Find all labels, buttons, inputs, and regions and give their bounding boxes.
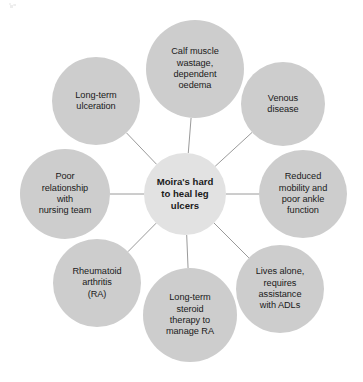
- satellite-node-label: Poor relationship with nursing team: [34, 171, 97, 217]
- connector-center-to-venous-disease: [215, 132, 252, 166]
- satellite-node-label: Rheumatoid arthritis (RA): [67, 266, 126, 300]
- diagram-canvas: Calf muscle wastage, dependent oedemaVen…: [0, 0, 363, 382]
- satellite-node-reduced-mobility[interactable]: Reduced mobility and poor ankle function: [259, 150, 347, 238]
- connector-center-to-lives-alone: [214, 223, 249, 258]
- satellite-node-calf-muscle-wastage[interactable]: Calf muscle wastage, dependent oedema: [146, 20, 244, 118]
- satellite-node-label: Venous disease: [262, 93, 303, 116]
- connector-center-to-calf-muscle-wastage: [188, 118, 191, 153]
- satellite-node-long-term-ulceration[interactable]: Long-term ulceration: [52, 57, 140, 145]
- satellite-node-label: Reduced mobility and poor ankle function: [274, 171, 332, 217]
- satellite-node-label: Long-term ulceration: [70, 90, 121, 113]
- satellite-node-rheumatoid-arthritis[interactable]: Rheumatoid arthritis (RA): [53, 239, 141, 327]
- connector-center-to-steroid-therapy: [187, 235, 188, 268]
- center-node-moiras-hard-to-heal-leg-ulcers[interactable]: Moira's hard to heal leg ulcers: [144, 153, 226, 235]
- satellite-node-steroid-therapy[interactable]: Long-term steroid therapy to manage RA: [143, 268, 237, 362]
- satellite-node-venous-disease[interactable]: Venous disease: [241, 62, 325, 146]
- connector-center-to-rheumatoid-arthritis: [128, 223, 156, 252]
- satellite-node-label: Lives alone, requires assistance with AD…: [251, 266, 309, 312]
- satellite-node-poor-relationship[interactable]: Poor relationship with nursing team: [20, 149, 110, 239]
- center-node-label: Moira's hard to heal leg ulcers: [152, 176, 219, 211]
- satellite-node-lives-alone[interactable]: Lives alone, requires assistance with AD…: [236, 245, 324, 333]
- connector-center-to-long-term-ulceration: [126, 133, 156, 165]
- satellite-node-label: Long-term steroid therapy to manage RA: [161, 292, 219, 338]
- satellite-node-label: Calf muscle wastage, dependent oedema: [166, 46, 223, 92]
